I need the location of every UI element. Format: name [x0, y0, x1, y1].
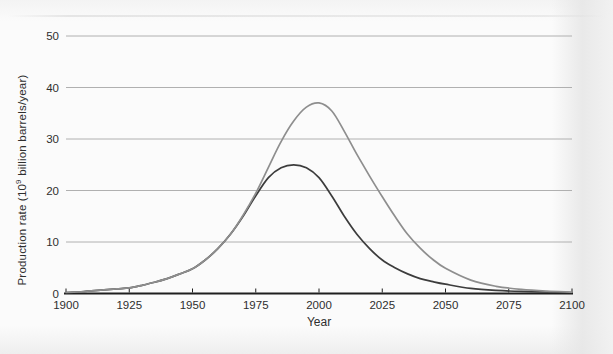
- x-tick-labels: 190019251950197520002025205020752100: [53, 299, 585, 311]
- y-tick-label-40: 40: [46, 82, 59, 94]
- x-tick-label-1950: 1950: [180, 299, 206, 311]
- production-rate-chart: 01020304050 1900192519501975200020252050…: [0, 0, 613, 354]
- y-axis-title-suffix: billion barrels/year): [16, 75, 28, 180]
- y-tick-label-0: 0: [53, 288, 59, 300]
- y-tick-label-20: 20: [46, 185, 59, 197]
- upper-scenario-curve: [66, 103, 572, 293]
- y-tick-label-10: 10: [46, 236, 59, 248]
- lower-scenario-curve: [66, 165, 572, 293]
- x-tick-label-1925: 1925: [116, 299, 142, 311]
- y-axis-title-prefix: Production rate (10: [16, 184, 28, 286]
- y-tick-label-30: 30: [46, 133, 59, 145]
- x-tick-label-2025: 2025: [369, 299, 395, 311]
- plot-canvas: 01020304050 1900192519501975200020252050…: [0, 0, 613, 354]
- x-tick-label-2100: 2100: [559, 299, 585, 311]
- x-tick-label-1975: 1975: [243, 299, 269, 311]
- x-tick-label-1900: 1900: [53, 299, 79, 311]
- y-axis-title: Production rate (109 billion barrels/yea…: [16, 60, 32, 300]
- y-tick-label-50: 50: [46, 30, 59, 42]
- x-axis-title: Year: [307, 315, 331, 329]
- x-tick-label-2050: 2050: [433, 299, 459, 311]
- x-tick-label-2075: 2075: [496, 299, 522, 311]
- y-tick-labels: 01020304050: [46, 30, 59, 300]
- x-tick-label-2000: 2000: [306, 299, 332, 311]
- y-axis-title-superscript: 9: [14, 179, 23, 184]
- gridlines: [66, 36, 572, 242]
